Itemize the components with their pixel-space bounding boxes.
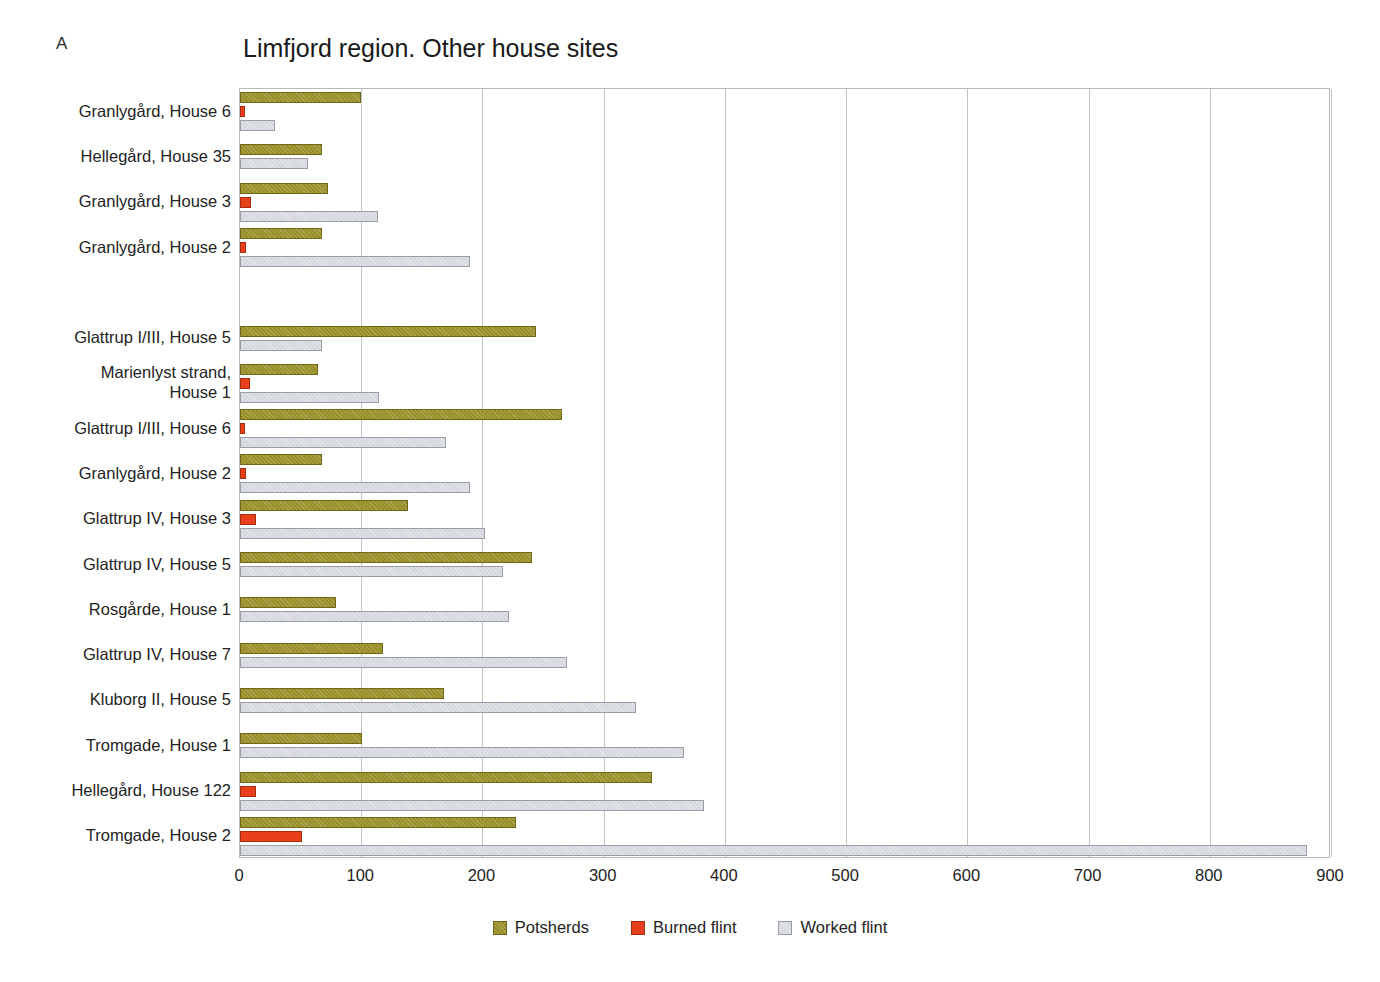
x-axis-tick-500: 500 [831,866,859,885]
bar-potsherds [240,183,328,194]
bar-worked [240,120,275,131]
bar-group [240,723,1329,768]
x-axis-tick-0: 0 [234,866,243,885]
y-axis-label: Glattrup I/III, House 5 [0,327,231,347]
bar-group [240,542,1329,587]
bar-group [240,315,1329,360]
bar-burned [240,831,302,842]
bar-potsherds [240,772,652,783]
bar-burned [240,197,251,208]
legend-entry[interactable]: Potsherds [493,918,589,937]
bar-group [240,768,1329,813]
bar-burned [240,468,246,479]
bar-worked [240,437,446,448]
y-axis-label: Granlygård, House 2 [0,463,231,483]
y-axis-label: Hellegård, House 122 [0,780,231,800]
bar-potsherds [240,454,322,465]
chart-figure: A Limfjord region. Other house sites Gra… [0,0,1380,982]
x-axis-tick-300: 300 [589,866,617,885]
y-axis-label: Kluborg II, House 5 [0,689,231,709]
x-axis: 0100200300400500600700800900 [239,858,1330,892]
bar-potsherds [240,364,318,375]
bar-worked [240,528,485,539]
legend-swatch-worked [778,921,792,935]
bar-worked [240,566,503,577]
bar-worked [240,340,322,351]
bar-potsherds [240,409,562,420]
bar-potsherds [240,228,322,239]
bar-rows [240,89,1329,857]
bar-burned [240,378,250,389]
y-axis-label: Granlygård, House 2 [0,237,231,257]
bar-group [240,270,1329,315]
bar-worked [240,256,470,267]
bar-worked [240,657,567,668]
plot-area [239,88,1330,858]
x-axis-tick-900: 900 [1316,866,1344,885]
y-axis-label: Glattrup IV, House 7 [0,644,231,664]
legend-label: Burned flint [653,918,736,937]
legend-label: Potsherds [515,918,589,937]
bar-group [240,134,1329,179]
bar-burned [240,786,256,797]
bar-potsherds [240,144,322,155]
y-axis-label: Rosgårde, House 1 [0,599,231,619]
bar-group [240,451,1329,496]
y-axis-label: Hellegård, House 35 [0,146,231,166]
bar-worked [240,845,1307,856]
legend-swatch-burned [631,921,645,935]
y-axis-label: Granlygård, House 6 [0,101,231,121]
bar-burned [240,242,246,253]
legend-entry[interactable]: Burned flint [631,918,736,937]
y-axis-label: Glattrup I/III, House 6 [0,418,231,438]
bar-potsherds [240,500,408,511]
y-axis-label: Granlygård, House 3 [0,191,231,211]
chart-legend: PotsherdsBurned flintWorked flint [0,918,1380,937]
bar-worked [240,158,308,169]
legend-swatch-potsherds [493,921,507,935]
bar-potsherds [240,733,362,744]
x-axis-tick-600: 600 [953,866,981,885]
bar-group [240,587,1329,632]
y-axis-label: Glattrup IV, House 5 [0,554,231,574]
y-axis-label: Glattrup IV, House 3 [0,508,231,528]
y-axis-labels: Granlygård, House 6Hellegård, House 35Gr… [0,88,231,858]
bar-group [240,361,1329,406]
bar-potsherds [240,92,361,103]
bar-burned [240,106,245,117]
bar-worked [240,611,509,622]
x-axis-tick-800: 800 [1195,866,1223,885]
bar-potsherds [240,817,516,828]
gridline-900 [1331,89,1332,857]
bar-worked [240,482,470,493]
x-axis-tick-100: 100 [346,866,374,885]
x-axis-tick-700: 700 [1074,866,1102,885]
panel-label: A [56,34,68,54]
bar-potsherds [240,552,532,563]
legend-entry[interactable]: Worked flint [778,918,887,937]
y-axis-label: Tromgade, House 1 [0,735,231,755]
y-axis-label: Tromgade, House 2 [0,825,231,845]
bar-potsherds [240,688,444,699]
legend-label: Worked flint [800,918,887,937]
bar-potsherds [240,597,336,608]
bar-worked [240,702,636,713]
bar-worked [240,800,704,811]
bar-group [240,89,1329,134]
bar-group [240,814,1329,859]
chart-title: Limfjord region. Other house sites [243,34,618,63]
bar-group [240,406,1329,451]
bar-group [240,497,1329,542]
bar-potsherds [240,326,536,337]
x-axis-tick-400: 400 [710,866,738,885]
y-axis-label: Marienlyst strand, House 1 [0,362,231,402]
bar-worked [240,392,379,403]
bar-group [240,678,1329,723]
bar-group [240,633,1329,678]
x-axis-tick-200: 200 [468,866,496,885]
bar-group [240,180,1329,225]
bar-group [240,225,1329,270]
bar-worked [240,747,684,758]
bar-worked [240,211,378,222]
bar-potsherds [240,643,383,654]
